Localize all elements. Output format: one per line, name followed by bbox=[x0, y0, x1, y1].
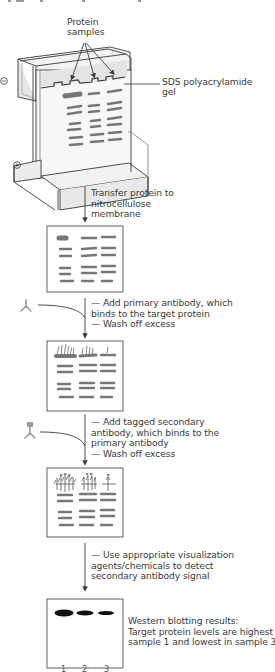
step-line: — Wash off excess bbox=[91, 449, 219, 460]
samples-label-line: samples bbox=[67, 27, 105, 37]
secondary-antibody-path bbox=[40, 432, 85, 446]
primary-antibody-path bbox=[38, 305, 85, 318]
membrane-primary-bound bbox=[47, 341, 123, 411]
protein-samples-label: Protein samples bbox=[67, 17, 105, 37]
sds-gel-label: SDS polyacrylamide gel bbox=[162, 77, 252, 97]
result-line: sample 1 and lowest in sample 3 bbox=[128, 637, 275, 648]
step-line: — Use appropriate visualization bbox=[91, 550, 234, 561]
lane-label-1: 1 bbox=[61, 665, 66, 672]
step-transfer-text: Transfer protein to nitrocellulose membr… bbox=[91, 188, 174, 220]
membrane-secondary-bound bbox=[47, 468, 123, 537]
result-text: Western blotting results: Target protein… bbox=[128, 616, 275, 648]
step-line: — Wash off excess bbox=[91, 319, 233, 330]
western-blot-result bbox=[47, 599, 123, 668]
step-line: — Add primary antibody, which bbox=[91, 298, 233, 309]
step-visualize-text: — Use appropriate visualization agents/c… bbox=[91, 550, 234, 582]
step-line: Transfer protein to bbox=[91, 188, 174, 199]
gel-label-line: gel bbox=[162, 87, 252, 97]
tagged-secondary-antibody-icon bbox=[25, 422, 35, 438]
step-line: membrane bbox=[91, 209, 174, 220]
result-line: Western blotting results: bbox=[128, 616, 275, 627]
cropped-caption bbox=[0, 0, 160, 4]
step-primary-text: — Add primary antibody, which binds to t… bbox=[91, 298, 233, 330]
step-line: secondary antibody signal bbox=[91, 571, 234, 582]
step-line: — Add tagged secondary bbox=[91, 417, 219, 428]
step-secondary-text: — Add tagged secondary antibody, which b… bbox=[91, 417, 219, 459]
membrane-transferred bbox=[47, 226, 123, 292]
primary-antibody-icon bbox=[21, 300, 31, 311]
lane-label-2: 2 bbox=[82, 665, 87, 672]
lane-label-3: 3 bbox=[104, 665, 109, 672]
